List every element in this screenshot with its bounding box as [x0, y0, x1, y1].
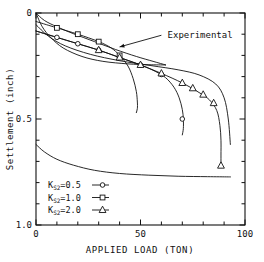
marker-triangle-2-4 — [179, 79, 186, 85]
x-tick-label-100: 100 — [237, 229, 253, 239]
marker-circle-0-0 — [55, 35, 60, 40]
annotation-label-experimental: Experimental — [168, 30, 233, 40]
curve-k-s2-2-0 — [36, 31, 221, 166]
legend-marker-triangle — [99, 206, 106, 212]
legend-label-2: KS2=2.0 — [48, 205, 81, 216]
load-settlement-chart: 050100 00.51.0 APPLIED LOAD (TON) Settle… — [0, 0, 264, 262]
data-markers — [55, 25, 225, 168]
chart-canvas: 050100 00.51.0 APPLIED LOAD (TON) Settle… — [0, 0, 264, 262]
legend-marker-square — [100, 195, 105, 200]
legend-marker-circle — [100, 183, 105, 188]
y-tick-label-1.0: 1.0 — [16, 220, 32, 230]
curve-computed-envelope-right — [36, 25, 230, 145]
y-axis-tick-labels: 00.51.0 — [16, 8, 32, 230]
x-tick-label-50: 50 — [135, 229, 146, 239]
marker-circle-0-6 — [180, 117, 185, 122]
curve-k-s2-1-0 — [36, 21, 137, 112]
marker-circle-0-1 — [76, 41, 81, 46]
marker-triangle-2-8 — [218, 162, 225, 168]
marker-square-1-0 — [55, 25, 60, 30]
chart-legend: KS2=0.5KS2=1.0KS2=2.0 — [48, 180, 109, 216]
y-tick-label-0: 0 — [27, 8, 32, 18]
x-tick-label-0: 0 — [33, 229, 38, 239]
y-tick-label-0.5: 0.5 — [16, 114, 32, 124]
legend-label-0: KS2=0.5 — [48, 180, 81, 191]
x-axis-title: APPLIED LOAD (TON) — [86, 245, 194, 255]
x-axis-tick-labels: 050100 — [33, 229, 253, 239]
annotation-leader-line — [120, 35, 162, 47]
annotation-arrowhead — [120, 44, 125, 48]
legend-label-1: KS2=1.0 — [48, 193, 81, 204]
y-axis-title: Settlement (inch) — [5, 68, 15, 170]
marker-square-1-2 — [96, 39, 101, 44]
chart-annotations: Experimental — [120, 30, 233, 47]
curve-lower-baseline-curve — [36, 144, 231, 176]
marker-square-1-1 — [75, 32, 80, 37]
